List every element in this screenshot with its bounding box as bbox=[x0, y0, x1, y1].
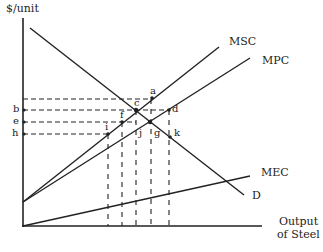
point-label-k: k bbox=[174, 128, 180, 138]
point-f bbox=[120, 120, 124, 124]
y-axis-label: $/unit bbox=[6, 3, 39, 14]
x-axis-label-line1: Output bbox=[279, 216, 318, 227]
tick-h bbox=[22, 132, 25, 135]
point-k bbox=[168, 135, 172, 139]
mpc-label: MPC bbox=[262, 55, 289, 66]
point-label-d: d bbox=[172, 104, 178, 114]
price-label-e: e bbox=[13, 116, 19, 126]
mec-label: MEC bbox=[261, 167, 289, 178]
price-label-b: b bbox=[13, 104, 19, 114]
point-i bbox=[106, 132, 110, 136]
x-axis-label-line2: of Steel bbox=[277, 229, 320, 240]
point-label-i: i bbox=[105, 122, 108, 132]
point-label-f: f bbox=[120, 110, 124, 120]
point-a bbox=[150, 96, 154, 100]
point-label-c: c bbox=[134, 98, 140, 108]
point-label-g: g bbox=[154, 128, 160, 138]
tick-e bbox=[22, 120, 25, 123]
point-g bbox=[148, 120, 152, 124]
msc-curve bbox=[23, 47, 219, 202]
point-label-a: a bbox=[150, 86, 156, 96]
point-d bbox=[167, 108, 171, 112]
demand-label: D bbox=[252, 190, 261, 201]
point-label-j: j bbox=[139, 128, 142, 138]
price-label-h: h bbox=[12, 128, 18, 138]
msc-label: MSC bbox=[229, 36, 256, 47]
point-c bbox=[134, 108, 138, 112]
externality-diagram bbox=[0, 0, 323, 252]
tick-b bbox=[22, 108, 25, 111]
